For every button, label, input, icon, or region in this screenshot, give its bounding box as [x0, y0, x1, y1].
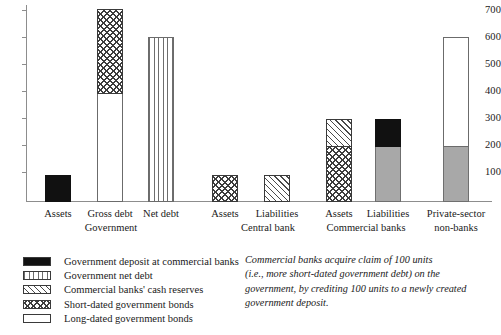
bar-segment-centralbank-assets-short-dated [212, 175, 238, 202]
crosshatch-swatch-icon [23, 300, 51, 309]
y-axis-line [26, 5, 27, 202]
legend-label-short-dated-bonds: Short-dated government bonds [64, 299, 193, 310]
y-tick-label-400: 400 [477, 86, 501, 97]
annotation-line-1: Commercial banks acquire claim of 100 un… [245, 253, 495, 267]
bar-segment-centralbank-liabilities-reserves [264, 175, 290, 202]
y-tick-mark-400 [22, 91, 26, 92]
y-tick-mark-700 [22, 10, 26, 11]
y-tick-mark-200 [22, 145, 26, 146]
legend-item-cash-reserves: Commercial banks' cash reserves [23, 283, 239, 297]
x-group-label-government: Government [66, 222, 156, 233]
legend-item-government-deposit: Government deposit at commercial banks [23, 254, 239, 268]
x-label-commbank-liabilities: Liabilities [354, 208, 422, 219]
y-tick-label-600: 600 [477, 32, 501, 43]
x-group-label-central-bank: Central bank [219, 222, 317, 233]
bar-segment-net-debt [148, 37, 174, 202]
legend-item-government-net-debt: Government net debt [23, 268, 239, 282]
chart-plot-area: 700 600 500 400 300 200 100 Assets Gross… [0, 0, 501, 250]
bar-segment-gross-debt-long-dated [97, 93, 123, 202]
x-label-private-sector: Private-sector [415, 208, 497, 219]
annotation-line-4: government deposit. [245, 296, 495, 310]
y-tick-label-300: 300 [477, 113, 501, 124]
y-tick-label-700: 700 [477, 5, 501, 16]
bar-segment-private-sector-long-dated [443, 37, 469, 147]
legend-label-cash-reserves: Commercial banks' cash reserves [64, 284, 203, 295]
x-group-label-commercial-banks: Commercial banks [311, 222, 421, 233]
legend-item-short-dated-bonds: Short-dated government bonds [23, 297, 239, 311]
bar-segment-commbank-liabilities-deposits [375, 146, 401, 202]
legend-label-long-dated-bonds: Long-dated government bonds [64, 313, 193, 324]
y-tick-mark-500 [22, 64, 26, 65]
legend-item-long-dated-bonds: Long-dated government bonds [23, 312, 239, 326]
vertical-stripe-swatch-icon [23, 271, 51, 280]
x-group-label-non-banks: non-banks [415, 222, 497, 233]
annotation-line-3: government, by crediting 100 units to a … [245, 282, 495, 296]
x-label-net-debt: Net debt [131, 208, 191, 219]
chart-legend: Government deposit at commercial banks G… [23, 254, 239, 326]
y-tick-label-500: 500 [477, 59, 501, 70]
solid-black-swatch-icon [23, 257, 51, 266]
y-tick-mark-300 [22, 118, 26, 119]
x-axis-line [26, 201, 492, 202]
bar-segment-gross-debt-short-dated [97, 9, 123, 94]
bar-segment-commbank-liabilities-govdeposit [375, 119, 401, 147]
chart-annotation: Commercial banks acquire claim of 100 un… [245, 253, 495, 311]
bar-segment-commbank-assets-short-dated [326, 146, 352, 202]
bar-segment-private-sector-deposits [443, 146, 469, 202]
annotation-line-2: (i.e., more short-dated government debt)… [245, 267, 495, 281]
legend-label-government-deposit: Government deposit at commercial banks [64, 256, 239, 267]
y-tick-label-200: 200 [477, 140, 501, 151]
legend-and-annotation-area: Government deposit at commercial banks G… [0, 248, 501, 335]
legend-label-government-net-debt: Government net debt [64, 270, 153, 281]
x-label-centralbank-liabilities: Liabilities [243, 208, 311, 219]
open-white-swatch-icon [23, 314, 51, 323]
y-tick-mark-100 [22, 172, 26, 173]
bar-segment-commbank-assets-reserves [326, 119, 352, 147]
diagonal-stripe-swatch-icon [23, 285, 51, 294]
y-tick-label-100: 100 [477, 167, 501, 178]
bar-segment-government-assets-deposit [45, 175, 71, 202]
y-tick-mark-600 [22, 37, 26, 38]
